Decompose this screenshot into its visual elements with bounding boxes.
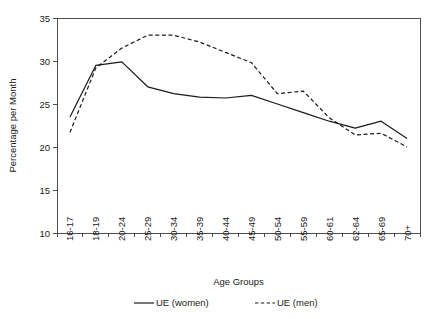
x-tick-label: 18-19 [90,217,101,241]
y-tick-label: 15 [39,185,50,196]
x-tick-label: 35-39 [194,217,205,241]
chart-container: 101520253035 16-1718-1920-2425-2930-3435… [0,0,433,319]
x-axis-title: Age Groups [213,276,264,287]
x-tick-label: 50-54 [272,217,283,241]
legend-label-1: UE (women) [156,297,209,308]
x-tick-label: 30-34 [168,217,179,241]
x-tick-label: 60-61 [324,217,335,241]
y-tick-label: 20 [39,142,50,153]
legend-label-2: UE (men) [277,297,318,308]
x-tick-label: 16-17 [64,217,75,241]
series-line-ue-men [70,35,407,147]
x-tick-label: 25-29 [142,217,153,241]
x-axis: 16-1718-1920-2425-2930-3435-3940-4445-49… [57,217,420,241]
y-tick-label: 35 [39,13,50,24]
x-tick-label: 55-59 [298,217,309,241]
y-axis: 101520253035 [39,13,57,239]
y-tick-label: 25 [39,99,50,110]
x-tick-label: 62-64 [350,217,361,241]
y-axis-title: Percentage per Month [7,78,18,172]
x-tick-label: 65-69 [376,217,387,241]
y-tick-label: 30 [39,56,50,67]
x-tick-label: 40-44 [220,217,231,241]
series-line-ue-women [70,62,407,139]
series-layer [70,35,407,147]
x-tick-label: 45-49 [246,217,257,241]
line-chart: 101520253035 16-1718-1920-2425-2930-3435… [0,0,433,319]
x-tick-label: 20-24 [116,217,127,241]
y-tick-label: 10 [39,228,50,239]
x-tick-label: 70+ [402,224,413,241]
chart-legend: UE (women)UE (men) [134,297,318,308]
